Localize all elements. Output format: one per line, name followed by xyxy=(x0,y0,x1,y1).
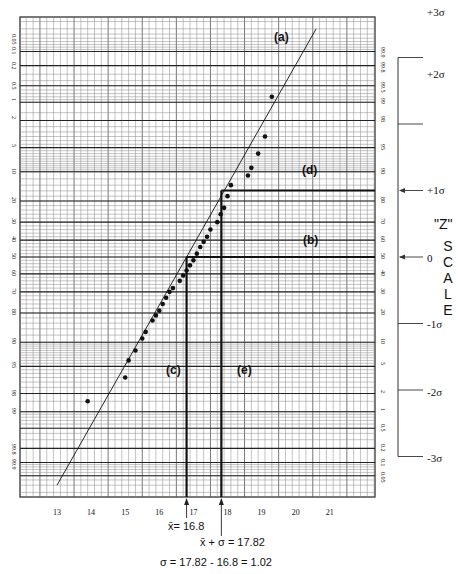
right-y-tick-label: 1 xyxy=(380,408,386,411)
arrowhead-icon xyxy=(184,498,189,505)
right-y-tick-label: 2 xyxy=(380,390,386,393)
x-tick-label: 14 xyxy=(87,508,95,517)
z-tick-plus3: +3σ xyxy=(427,6,445,18)
x-tick-label: 15 xyxy=(121,508,129,517)
right-y-tick-label: 5 xyxy=(380,362,386,365)
right-y-tick-label: 0.1 xyxy=(380,459,386,467)
annotation-c: (c) xyxy=(166,363,181,377)
z-tick-zero: 0 xyxy=(427,252,433,264)
arrowhead-icon xyxy=(399,255,405,260)
data-point xyxy=(171,286,176,291)
left-y-tick-label: 98 xyxy=(11,390,17,396)
mean-plus-sigma-label: x̄ + σ = 17.82 xyxy=(200,536,265,548)
data-point xyxy=(140,336,145,341)
mean-label: x̄= 16.8 xyxy=(168,520,204,532)
data-point xyxy=(157,308,162,313)
data-point xyxy=(126,358,131,363)
left-y-tick-label: 0.5 xyxy=(11,82,17,90)
right-y-tick-label: 90 xyxy=(380,168,386,174)
annotation-b: (b) xyxy=(303,233,318,247)
data-point xyxy=(256,151,261,156)
left-y-tick-label: 95 xyxy=(11,362,17,368)
right-y-tick-label: 0.2 xyxy=(380,444,386,452)
probability-plot xyxy=(0,0,458,574)
data-point xyxy=(208,227,213,232)
data-point xyxy=(229,183,234,188)
right-y-tick-label: 40 xyxy=(380,270,386,276)
right-y-tick-label: 20 xyxy=(380,309,386,315)
right-y-tick-label: 99.5 xyxy=(380,82,386,93)
left-y-tick-label: 40 xyxy=(11,236,17,242)
annotation-a: (a) xyxy=(274,30,289,44)
right-y-tick-label: 10 xyxy=(380,338,386,344)
left-y-tick-label: 0.05 xyxy=(11,34,17,45)
left-y-tick-label: 30 xyxy=(11,218,17,224)
left-y-tick-label: 0.1 xyxy=(11,47,17,55)
data-point xyxy=(123,375,128,380)
z-tick-minus3: -3σ xyxy=(427,452,442,464)
left-y-tick-label: 2 xyxy=(11,116,17,119)
right-y-tick-label: 80 xyxy=(380,197,386,203)
z-tick-minus1: -1σ xyxy=(427,318,442,330)
z-scale-letter: L xyxy=(440,286,456,302)
right-y-tick-label: 70 xyxy=(380,218,386,224)
annotation-d: (d) xyxy=(302,163,317,177)
x-tick-label: 19 xyxy=(258,508,266,517)
z-tick-plus1: +1σ xyxy=(427,184,445,196)
z-scale-title: "Z" xyxy=(434,216,453,232)
data-point xyxy=(188,263,193,268)
data-point xyxy=(195,251,200,256)
left-y-tick-label: 70 xyxy=(11,288,17,294)
x-tick-label: 18 xyxy=(224,508,232,517)
left-y-tick-label: 20 xyxy=(11,197,17,203)
arrowhead-icon xyxy=(399,188,405,193)
data-point xyxy=(184,268,189,273)
right-y-tick-label: 99.8 xyxy=(380,62,386,73)
data-point xyxy=(154,313,159,318)
x-tick-label: 16 xyxy=(155,508,163,517)
data-point xyxy=(191,258,196,263)
right-y-tick-label: 0.05 xyxy=(380,472,386,483)
right-y-tick-label: 30 xyxy=(380,288,386,294)
data-point xyxy=(160,302,165,307)
left-y-tick-label: 80 xyxy=(11,309,17,315)
data-point xyxy=(85,399,90,404)
x-tick-label: 13 xyxy=(53,508,61,517)
data-point xyxy=(201,240,206,245)
right-y-tick-label: 98 xyxy=(380,116,386,122)
left-y-tick-label: 0.2 xyxy=(11,62,17,70)
z-scale-word: SCALE xyxy=(440,238,456,318)
x-tick-label: 20 xyxy=(292,508,300,517)
right-y-tick-label: 0.5 xyxy=(380,424,386,432)
data-point xyxy=(246,173,251,178)
left-y-tick-label: 90 xyxy=(11,338,17,344)
data-point xyxy=(263,134,268,139)
z-scale-letter: A xyxy=(440,270,456,286)
data-point xyxy=(164,295,169,300)
data-point xyxy=(150,318,155,323)
z-scale-axis xyxy=(398,58,423,457)
x-tick-label: 21 xyxy=(326,508,334,517)
data-point xyxy=(215,220,220,225)
data-point xyxy=(167,290,172,295)
annotation-e: (e) xyxy=(237,363,252,377)
data-point xyxy=(143,330,148,335)
data-point xyxy=(177,279,182,284)
left-y-tick-label: 10 xyxy=(11,168,17,174)
left-y-tick-label: 99.8 xyxy=(11,444,17,455)
arrowhead-icon xyxy=(219,498,224,505)
left-y-tick-label: 99.9 xyxy=(11,459,17,470)
data-point xyxy=(198,245,203,250)
data-point xyxy=(205,234,210,239)
right-y-tick-label: 60 xyxy=(380,236,386,242)
right-y-tick-label: 99 xyxy=(380,98,386,104)
right-y-tick-label: 95 xyxy=(380,144,386,150)
left-y-tick-label: 99 xyxy=(11,408,17,414)
x-tick-label: 17 xyxy=(189,508,197,517)
z-scale-letter: S xyxy=(440,238,456,254)
data-point xyxy=(133,348,138,353)
z-tick-minus2: -2σ xyxy=(427,386,442,398)
right-y-tick-label: 99.9 xyxy=(380,47,386,58)
data-point xyxy=(181,273,186,278)
left-y-tick-label: 60 xyxy=(11,270,17,276)
